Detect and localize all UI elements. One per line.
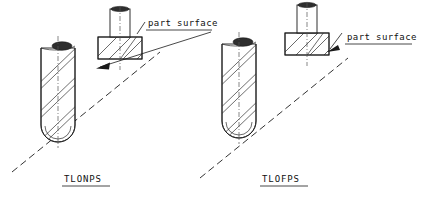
cam-tool-location-diagram: part surface TLONPS xyxy=(0,0,425,200)
technical-drawing-canvas: part surface TLONPS xyxy=(0,0,425,200)
leader-arrow-icon-left xyxy=(96,63,110,70)
end-mill-section-left xyxy=(92,6,158,70)
panel-tlonps: part surface TLONPS xyxy=(12,6,218,186)
part-surface-label-right: part surface xyxy=(347,32,417,42)
end-mill-section-right xyxy=(279,2,345,66)
part-surface-label-left: part surface xyxy=(148,18,218,28)
caption-tlonps: TLONPS xyxy=(64,174,102,184)
caption-tlofps: TLOFPS xyxy=(262,174,300,184)
ball-end-mill-left xyxy=(30,36,84,183)
ball-end-mill-right xyxy=(211,32,265,179)
panel-tlofps: part surface TLOFPS xyxy=(200,2,417,186)
leader-tick-left xyxy=(137,22,145,34)
part-surface-line-left xyxy=(12,52,160,172)
